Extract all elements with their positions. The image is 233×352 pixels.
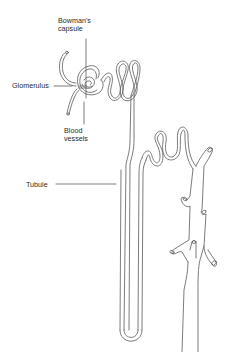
nephron-drawing bbox=[0, 0, 233, 352]
collecting-duct bbox=[196, 147, 217, 266]
bowmans-capsule bbox=[77, 66, 103, 95]
efferent-vessel bbox=[67, 89, 77, 113]
ascending-limb bbox=[138, 158, 142, 330]
label-bowmans-capsule: Bowman's capsule bbox=[58, 17, 91, 33]
label-tubule: Tubule bbox=[26, 181, 48, 189]
label-blood-vessels-line2: vessels bbox=[64, 135, 88, 143]
label-bowmans-capsule-line2: capsule bbox=[58, 25, 91, 33]
afferent-vessel bbox=[59, 52, 76, 86]
nephron-diagram: Bowman's capsule Glomerulus Blood vessel… bbox=[0, 0, 233, 352]
label-blood-vessels: Blood vessels bbox=[64, 127, 88, 143]
loop-of-henle bbox=[124, 330, 138, 338]
label-glomerulus: Glomerulus bbox=[12, 82, 49, 90]
